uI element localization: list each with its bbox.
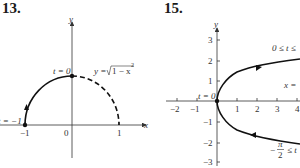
tick-zero: 0: [64, 128, 69, 138]
tick-neg-one: −1: [20, 128, 30, 138]
svg-text:2: 2: [278, 150, 283, 160]
solid-arc: [25, 76, 72, 125]
figure-15-plot: y −2 −1 1 2 3 4 3 2 1 −1: [166, 19, 300, 167]
svg-text:−1: −1: [203, 117, 213, 127]
svg-text:−2: −2: [170, 104, 180, 114]
top-label: t = 0: [53, 66, 71, 76]
svg-text:3: 3: [208, 35, 213, 45]
curve-equation: y = 1 − x 2: [93, 62, 134, 76]
curve-equation: x =: [283, 80, 296, 90]
start-point: [23, 123, 27, 127]
figures-canvas: x y −1 0 1 t = −1 t = 0 y = 1 − x 2 y: [0, 0, 300, 168]
svg-text:−: −: [270, 145, 275, 155]
origin-label: t = 0: [198, 91, 216, 101]
x-axis-label: x: [143, 120, 148, 130]
y-axis-label: y: [68, 14, 73, 24]
svg-text:−2: −2: [203, 138, 213, 148]
x-ticks: −2 −1 1 2 3 4: [170, 98, 300, 114]
svg-text:2: 2: [255, 104, 260, 114]
svg-text:1 − x: 1 − x: [112, 66, 131, 76]
tick-one: 1: [117, 128, 122, 138]
figure-13-plot: x y −1 0 1 t = −1 t = 0 y = 1 − x 2: [0, 14, 148, 158]
svg-text:−1: −1: [190, 104, 200, 114]
start-label: t = −1: [0, 116, 22, 126]
svg-text:≤ t: ≤ t: [287, 145, 297, 155]
svg-text:1: 1: [235, 104, 240, 114]
svg-text:4: 4: [295, 104, 300, 114]
svg-text:2: 2: [131, 62, 134, 68]
svg-text:1: 1: [208, 76, 213, 86]
upper-range-label: 0 ≤ t ≤: [272, 43, 296, 53]
y-axis-label: y: [213, 19, 218, 29]
lower-direction-arrow-icon: [250, 132, 256, 138]
svg-text:2: 2: [208, 56, 213, 66]
svg-text:π: π: [278, 139, 283, 149]
svg-text:−3: −3: [203, 157, 213, 167]
dashed-arc: [72, 76, 119, 125]
svg-text:y =: y =: [93, 66, 106, 76]
svg-text:3: 3: [275, 104, 280, 114]
